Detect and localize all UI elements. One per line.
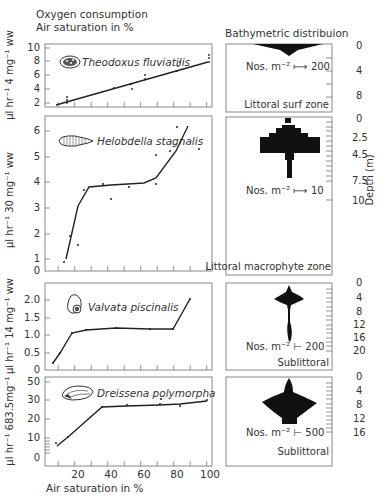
theodoxus-shell-icon bbox=[60, 56, 80, 68]
r4-dtick: 0 bbox=[356, 371, 362, 382]
p1-ytick: 4 bbox=[34, 83, 40, 94]
r4-dtick: 16 bbox=[353, 427, 366, 438]
p1-ytick: 8 bbox=[34, 55, 40, 66]
panel1-frame bbox=[45, 44, 212, 107]
r1-dtick: 8 bbox=[356, 90, 362, 101]
r3-dtick: 0 bbox=[356, 277, 362, 288]
p4-ytick: 10 bbox=[27, 432, 40, 443]
xtick: 40 bbox=[104, 468, 117, 480]
r1-zone: Littoral surf zone bbox=[244, 99, 329, 110]
p1-species: Theodoxus fluviatilis bbox=[82, 56, 191, 68]
r3-dtick: 16 bbox=[353, 332, 366, 343]
p2-ytick: 5 bbox=[34, 151, 40, 162]
xtick: 20 bbox=[71, 468, 84, 480]
r1-dtick: 0 bbox=[356, 40, 362, 51]
depth-label: Depth (m) bbox=[364, 154, 375, 205]
xtick: 60 bbox=[137, 468, 150, 480]
theodoxus-kite bbox=[253, 44, 323, 56]
r4-dtick: 4 bbox=[356, 385, 362, 396]
helobdella-leech-icon bbox=[59, 136, 93, 146]
p4-fit-line bbox=[57, 401, 207, 446]
valvata-snail-icon bbox=[68, 295, 82, 313]
r2-scale-label: Nos. m⁻² ⟼ 10 bbox=[246, 185, 324, 196]
p3-ytick: 1.5 bbox=[24, 312, 40, 323]
p3-ytick: 0.5 bbox=[24, 347, 40, 358]
p4-ytick: 30 bbox=[27, 394, 40, 405]
r3-dtick: 12 bbox=[353, 319, 366, 330]
r2-zone: Littoral macrophyte zone bbox=[205, 261, 331, 272]
r3-dtick: 4 bbox=[356, 292, 362, 303]
p2-ytick: 0 bbox=[34, 265, 40, 276]
r4-dtick: 12 bbox=[353, 413, 366, 424]
p1-fit-line bbox=[56, 62, 208, 105]
valvata-kite bbox=[274, 285, 304, 342]
r2-dtick: 10 bbox=[352, 195, 365, 206]
r1-scale-label: Nos. m⁻² ⟼ 200 bbox=[246, 61, 330, 72]
p4-ylabel: µl hr⁻¹ 683.5mg⁻¹ bbox=[4, 376, 15, 465]
r1-dtick: 4 bbox=[356, 65, 362, 76]
p2-ytick: 3 bbox=[34, 202, 40, 213]
helobdella-kite bbox=[260, 118, 320, 178]
xtick: 80 bbox=[170, 468, 183, 480]
xtick: 100 bbox=[200, 468, 220, 480]
r3-zone: Sublittoral bbox=[277, 357, 329, 368]
p3-species: Valvata piscinalis bbox=[88, 301, 179, 313]
p2-ytick: 6 bbox=[34, 125, 40, 136]
p1-ytick: 2 bbox=[34, 97, 40, 108]
p3-ytick: 0 bbox=[34, 364, 40, 375]
p2-ytick: 1 bbox=[34, 253, 40, 264]
r2-dtick: 2.5 bbox=[352, 132, 368, 143]
p3-ytick: 1.0 bbox=[24, 329, 40, 340]
r4-zone: Sublittoral bbox=[277, 446, 329, 457]
r4-dtick: 8 bbox=[356, 399, 362, 410]
p4-ytick: 50 bbox=[27, 376, 40, 387]
p2-species: Helobdella stagnalis bbox=[97, 135, 204, 147]
p4-species: Dreissena polymorpha bbox=[97, 387, 216, 399]
p2-ytick: 2 bbox=[34, 228, 40, 239]
p1-ytick: 10 bbox=[27, 42, 40, 53]
p1-ylabel: µl hr⁻¹ 4 mg⁻¹ ww bbox=[4, 30, 15, 120]
p4-ytick: 0 bbox=[34, 452, 40, 463]
p4-ytick: 20 bbox=[27, 413, 40, 424]
p2-ytick: 4 bbox=[34, 176, 40, 187]
r3-dtick: 20 bbox=[353, 345, 366, 356]
r2-dtick: 0 bbox=[356, 113, 362, 124]
p1-ytick: 6 bbox=[34, 69, 40, 80]
p3-ylabel: µl hr⁻¹ 14 mg⁻¹ ww bbox=[4, 278, 15, 374]
p3-ytick: 2.0 bbox=[24, 294, 40, 305]
r3-dtick: 8 bbox=[356, 306, 362, 317]
r3-scale-label: Nos. m⁻² ⊢ 200 bbox=[246, 341, 324, 352]
panel3-frame bbox=[45, 283, 212, 370]
r4-scale-label: Nos. m⁻² ⊢ 500 bbox=[246, 427, 324, 438]
figure: 10 8 6 4 2 6 5 4 3 2 1 0 2.0 1.5 1.0 0.5… bbox=[0, 0, 392, 502]
dreissena-mussel-icon bbox=[62, 386, 93, 400]
p2-ylabel: µl hr⁻¹ 30 mg⁻¹ ww bbox=[4, 152, 15, 248]
x-axis-label: Air saturation in % bbox=[46, 482, 144, 494]
dreissena-kite bbox=[262, 378, 317, 424]
